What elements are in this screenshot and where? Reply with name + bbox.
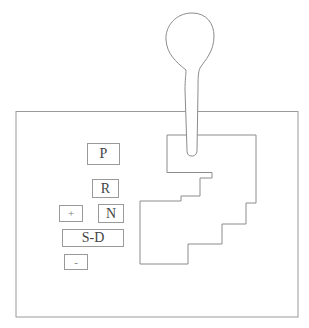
minus-button[interactable]: - [64, 254, 88, 270]
shifter-diagram [0, 0, 309, 328]
park-button[interactable]: P [87, 143, 120, 165]
sport-drive-label: S-D [82, 231, 105, 245]
reverse-label: R [101, 182, 110, 196]
sport-drive-button[interactable]: S-D [62, 229, 124, 247]
reverse-button[interactable]: R [92, 179, 119, 198]
park-label: P [100, 147, 108, 161]
plus-icon: + [68, 208, 74, 219]
shift-gate-icon [140, 135, 256, 264]
neutral-label: N [106, 207, 116, 221]
minus-icon: - [74, 257, 78, 268]
plus-button[interactable]: + [59, 205, 83, 222]
neutral-button[interactable]: N [98, 204, 124, 223]
